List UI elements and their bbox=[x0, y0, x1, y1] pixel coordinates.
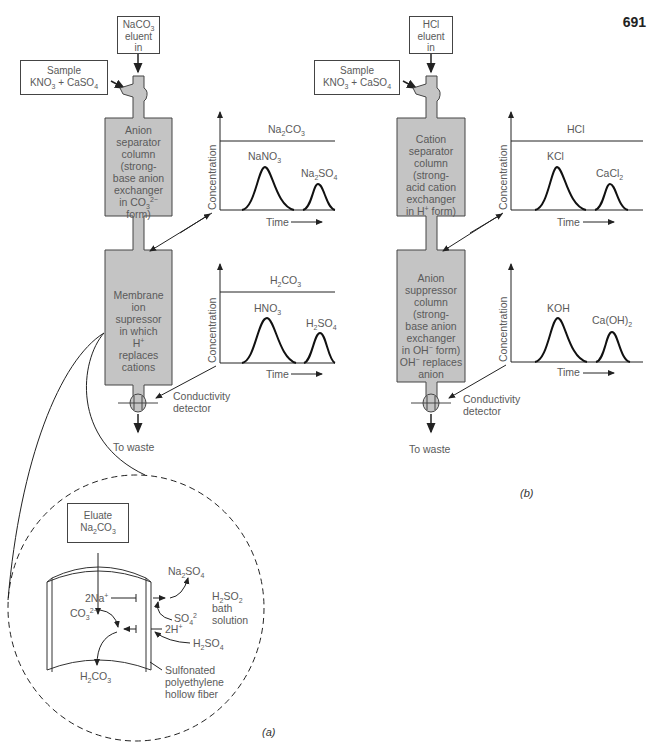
page-number: 691 bbox=[623, 14, 646, 30]
eluate-box: EluateNa2CO3 bbox=[67, 503, 129, 543]
sample-box-a: SampleKNO3 + CaSO4 bbox=[20, 60, 108, 95]
hollow-fiber-label: Sulfonatedpolyethylenehollow fiber bbox=[165, 664, 224, 700]
eluent-box-a: NaCO3eluentin bbox=[117, 16, 160, 54]
membrane-suppressor-label: Membraneionsupressorin whichH+replacesca… bbox=[105, 289, 172, 373]
chart-b1-ylabel: Concentration bbox=[497, 145, 509, 210]
chart-a2-peak-1: HNO3 bbox=[254, 302, 281, 314]
chart-b1-baseline-label: HCl bbox=[567, 123, 585, 135]
chart-a2-peak-2: H2SO4 bbox=[306, 317, 337, 329]
caption-b: (b) bbox=[520, 487, 533, 499]
chart-a1-ylabel: Concentration bbox=[206, 145, 218, 210]
anion-suppressor-column-label: Anionsuppressorcolumn(strong-base anione… bbox=[395, 272, 467, 380]
chart-a1-xlabel: Time bbox=[266, 216, 289, 228]
sodium-sulfate-label: Na2SO4 bbox=[168, 565, 204, 577]
cation-separator-column-label: Cationseparatorcolumn(strong-acid cation… bbox=[397, 133, 465, 217]
conductivity-detector-label-a: Conductivitydetector bbox=[173, 390, 230, 414]
anion-separator-column-label: Anionseparatorcolumn(strong-base anionex… bbox=[105, 124, 172, 220]
chart-b2-xlabel: Time bbox=[557, 366, 580, 378]
chart-a2-ylabel: Concentration bbox=[206, 298, 218, 363]
chart-b2-ylabel: Concentration bbox=[497, 297, 509, 362]
carbonic-acid-label: H2CO3 bbox=[80, 670, 111, 682]
chart-a1-baseline-label: Na2CO3 bbox=[268, 123, 305, 135]
panel-a-column-assembly bbox=[105, 44, 172, 432]
sulfuric-acid-label: H2SO4 bbox=[193, 637, 224, 649]
carbonate-ion-label: CO32− bbox=[70, 607, 98, 619]
eluent-box-b: HCleluentin bbox=[409, 16, 453, 54]
bath-solution-label: H2SO2bathsolution bbox=[212, 590, 248, 626]
hydrogen-ion-label: 2H+ bbox=[165, 623, 183, 635]
to-waste-label-a: To waste bbox=[113, 441, 154, 453]
caption-a: (a) bbox=[262, 726, 275, 738]
chart-a1-peak-2: Na2SO4 bbox=[301, 167, 337, 179]
chart-b2-peak-2: Ca(OH)2 bbox=[592, 314, 632, 326]
chart-b2-peak-1: KOH bbox=[547, 302, 570, 314]
to-waste-label-b: To waste bbox=[409, 443, 450, 455]
chart-b1-peak-1: KCl bbox=[547, 150, 564, 162]
conductivity-detector-label-b: Conductivitydetector bbox=[463, 393, 520, 417]
chart-a2-baseline-label: H2CO3 bbox=[270, 274, 301, 286]
chart-b1-xlabel: Time bbox=[557, 216, 580, 228]
chart-a2-xlabel: Time bbox=[266, 368, 289, 380]
sample-box-b: SampleKNO3 + CaSO4 bbox=[314, 60, 400, 95]
chart-a1-peak-1: NaNO3 bbox=[248, 150, 281, 162]
chart-b1-peak-2: CaCl2 bbox=[596, 167, 623, 179]
na-ion-label: 2Na+ bbox=[85, 592, 108, 604]
